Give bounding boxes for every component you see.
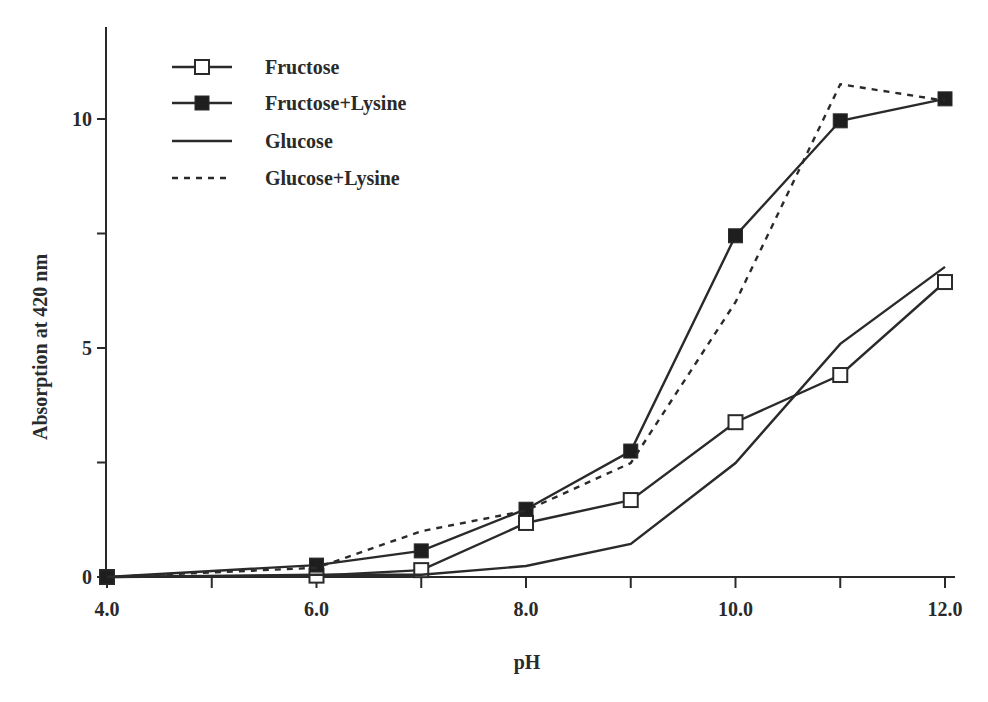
filled-square-marker <box>624 444 638 458</box>
legend-item: Fructose+Lysine <box>172 92 407 115</box>
filled-square-marker <box>195 96 209 110</box>
filled-square-marker <box>833 114 847 128</box>
open-square-marker <box>519 516 533 530</box>
series-fructose-plus-lysine <box>100 92 952 584</box>
legend-label: Fructose <box>265 56 340 78</box>
x-tick-label: 12.0 <box>928 598 963 620</box>
series-group <box>100 84 952 584</box>
legend-label: Glucose+Lysine <box>265 167 400 190</box>
x-tick-label: 6.0 <box>304 598 329 620</box>
open-square-marker <box>729 415 743 429</box>
filled-square-marker <box>729 229 743 243</box>
series-line <box>107 282 945 577</box>
legend-label: Glucose <box>265 130 333 152</box>
line-chart: 4.06.08.010.012.00510 FructoseFructose+L… <box>0 0 988 702</box>
axes: 4.06.08.010.012.00510 <box>72 27 963 620</box>
x-tick-label: 8.0 <box>514 598 539 620</box>
legend-item: Glucose <box>172 130 333 152</box>
filled-square-marker <box>414 544 428 558</box>
series-fructose <box>100 275 952 584</box>
y-tick-label: 0 <box>82 566 92 588</box>
x-tick-label: 10.0 <box>718 598 753 620</box>
legend-label: Fructose+Lysine <box>265 92 407 115</box>
legend-item: Glucose+Lysine <box>172 167 400 190</box>
open-square-marker <box>195 60 209 74</box>
y-tick-label: 5 <box>82 337 92 359</box>
filled-square-marker <box>310 558 324 572</box>
open-square-marker <box>938 275 952 289</box>
y-tick-label: 10 <box>72 108 92 130</box>
open-square-marker <box>624 493 638 507</box>
open-square-marker <box>833 368 847 382</box>
legend: FructoseFructose+LysineGlucoseGlucose+Ly… <box>172 56 407 190</box>
filled-square-marker <box>938 92 952 106</box>
x-axis-title: pH <box>514 651 541 674</box>
x-tick-label: 4.0 <box>95 598 120 620</box>
legend-item: Fructose <box>172 56 340 78</box>
y-axis-title: Absorption at 420 nm <box>29 254 52 440</box>
